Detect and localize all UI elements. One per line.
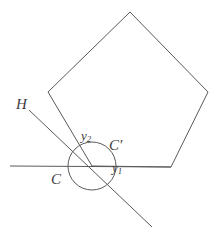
label-y1: y1 xyxy=(112,161,122,176)
label-y2: y2 xyxy=(81,129,91,144)
label-C-prime-base: C xyxy=(109,137,119,153)
label-y1-subscript: 1 xyxy=(118,166,122,176)
label-H: H xyxy=(16,97,27,112)
pentagon-shape xyxy=(48,12,208,167)
label-y2-subscript: 2 xyxy=(87,134,91,144)
label-C-prime: C′ xyxy=(109,138,122,153)
horizontal-line-C xyxy=(10,166,171,167)
label-C: C xyxy=(51,172,61,187)
transversal-line-H xyxy=(29,110,152,227)
label-C-prime-mark: ′ xyxy=(119,137,122,153)
geometry-figure: H y2 C′ y1 C xyxy=(0,0,218,238)
figure-canvas xyxy=(0,0,218,238)
